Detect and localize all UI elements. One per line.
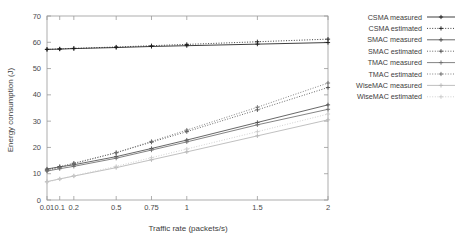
legend-label: CSMA estimated: [368, 24, 422, 33]
y-tick-label: 50: [33, 64, 41, 73]
y-tick-label: 60: [33, 38, 41, 47]
x-tick-label: 0.2: [69, 203, 79, 212]
y-axis-title: Energy consumption (J): [6, 67, 15, 152]
x-tick-label: 0.01: [40, 203, 55, 212]
y-tick-label: 10: [33, 169, 41, 178]
y-tick-label: 30: [33, 117, 41, 126]
chart-figure: 010203040506070 0.010.10.20.50.7511.52 E…: [0, 0, 459, 236]
legend-label: SMAC measured: [367, 35, 422, 44]
energy-consumption-line-chart: 010203040506070 0.010.10.20.50.7511.52 E…: [0, 0, 459, 236]
legend-label: TMAC measured: [368, 58, 422, 67]
legend-label: CSMA measured: [368, 13, 422, 22]
x-tick-label: 1: [185, 203, 189, 212]
x-tick-label: 1.5: [252, 203, 262, 212]
x-axis-title: Traffic rate (packets/s): [148, 224, 227, 233]
legend-label: WiseMAC estimated: [357, 92, 422, 101]
x-tick-label: 0.75: [144, 203, 159, 212]
y-tick-label: 70: [33, 12, 41, 21]
legend-label: TMAC estimated: [368, 70, 422, 79]
x-tick-label: 2: [326, 203, 330, 212]
x-tick-label: 0.5: [111, 203, 121, 212]
x-tick-label: 0.1: [54, 203, 64, 212]
legend-label: WiseMAC measured: [356, 81, 422, 90]
y-tick-label: 20: [33, 143, 41, 152]
y-tick-label: 40: [33, 90, 41, 99]
legend-label: SMAC estimated: [368, 47, 422, 56]
